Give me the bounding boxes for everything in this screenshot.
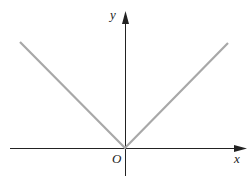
graph-svg	[0, 0, 249, 182]
y-axis	[122, 11, 129, 176]
diagram-canvas: y x O	[0, 0, 249, 182]
x-axis-label: x	[234, 152, 240, 165]
y-axis-label: y	[110, 8, 116, 21]
abs-curve	[20, 42, 228, 148]
origin-label: O	[112, 152, 121, 165]
y-axis-arrow-icon	[122, 11, 129, 24]
x-axis	[10, 145, 247, 152]
